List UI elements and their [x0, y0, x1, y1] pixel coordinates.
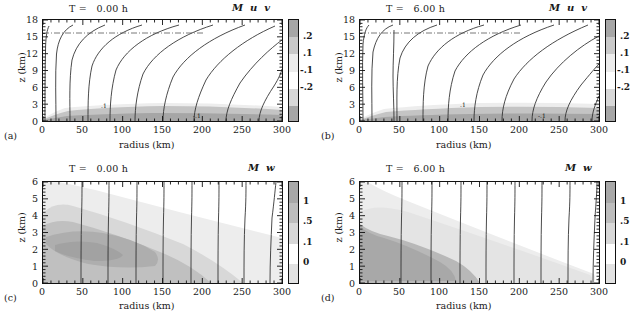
panel-d-xtick-200: 200	[509, 286, 529, 297]
panel-a-ytick-3: 3	[16, 99, 38, 110]
panel-a-ytick-15: 15	[16, 31, 38, 42]
panel-a-plot-area: .1 -.1	[42, 19, 283, 122]
panel-c-cbar-label-2: .1	[303, 237, 312, 247]
panel-d-xtick-50: 50	[389, 286, 409, 297]
panel-c-ytick-3: 3	[16, 227, 38, 238]
panel-b-xtick-0: 0	[349, 124, 369, 135]
panel-b-xtick-100: 100	[429, 124, 449, 135]
panel-d-variables: M w	[565, 162, 592, 173]
panel-c-ytick-4: 4	[16, 210, 38, 221]
panel-d-plot-area	[359, 181, 600, 284]
panel-b-cbar-label-2: -.1	[617, 65, 630, 75]
panel-c-xtick-0: 0	[32, 286, 52, 297]
panel-b-variables: M u v	[549, 2, 587, 13]
panel-a-xtick-50: 50	[72, 124, 92, 135]
panel-a-tag: (a)	[4, 130, 17, 141]
panel-a-contour-label-1: .1	[101, 102, 107, 109]
panel-b-cbar-label-0: .2	[620, 31, 629, 41]
panel-d-shading	[360, 182, 595, 283]
panel-b-tag: (b)	[321, 130, 335, 141]
panel-d-xtick-250: 250	[549, 286, 569, 297]
panel-b-xtick-50: 50	[389, 124, 409, 135]
panel-b-xtick-150: 150	[469, 124, 489, 135]
panel-c-xtick-100: 100	[112, 286, 132, 297]
panel-d-xtick-100: 100	[429, 286, 449, 297]
panel-b-plot-area: .1 -.1	[359, 19, 600, 122]
panel-c-xtick-300: 300	[272, 286, 292, 297]
panel-a-colorbar	[288, 19, 299, 122]
panel-b-xtick-300: 300	[589, 124, 609, 135]
panel-c-xtick-150: 150	[152, 286, 172, 297]
panel-a-variables: M u v	[232, 2, 270, 13]
panel-d-xlabel: radius (km)	[436, 300, 492, 311]
panel-b-ytick-15: 15	[333, 31, 355, 42]
panel-b-xtick-250: 250	[549, 124, 569, 135]
panel-d-cbar-label-2: .1	[620, 237, 629, 247]
panel-c-cbar-label-0: 1	[303, 196, 309, 206]
panel-a-cbar-label-2: -.1	[300, 65, 313, 75]
panel-a-contour-label-2: -.1	[193, 112, 201, 119]
panel-a-xtick-150: 150	[152, 124, 172, 135]
panel-b-ytick-12: 12	[333, 48, 355, 59]
panel-b-cbar-label-1: .1	[620, 48, 629, 58]
panel-d-ytick-1: 1	[333, 261, 355, 272]
panel-a-ytick-18: 18	[16, 14, 38, 25]
panel-a-xtick-200: 200	[192, 124, 212, 135]
panel-c-ytick-5: 5	[16, 193, 38, 204]
panel-b-xtick-200: 200	[509, 124, 529, 135]
panel-d-title: T = 6.00 h	[386, 163, 445, 174]
panel-a-cbar-label-1: .1	[303, 48, 312, 58]
panel-a-xtick-0: 0	[32, 124, 52, 135]
panel-b-ytick-9: 9	[333, 65, 355, 76]
panel-a-ytick-9: 9	[16, 65, 38, 76]
panel-a-ytick-6: 6	[16, 82, 38, 93]
panel-d-cbar-label-1: .5	[620, 216, 629, 226]
panel-d-colorbar	[605, 181, 616, 284]
panel-d-cbar-label-3: 0	[620, 257, 626, 267]
panel-a-xlabel: radius (km)	[119, 139, 175, 150]
panel-c-plot-area	[42, 181, 283, 284]
panel-d-xtick-300: 300	[589, 286, 609, 297]
panel-c-ytick-6: 6	[16, 176, 38, 187]
panel-c-ytick-2: 2	[16, 244, 38, 255]
panel-d-cbar-label-0: 1	[620, 196, 626, 206]
panel-b-contour-label-2: -.1	[538, 112, 546, 119]
panel-d-ytick-6: 6	[333, 176, 355, 187]
panel-d-ytick-5: 5	[333, 193, 355, 204]
panel-c-ytick-1: 1	[16, 261, 38, 272]
panel-c-xlabel: radius (km)	[119, 300, 175, 311]
panel-b-ytick-3: 3	[333, 99, 355, 110]
panel-c-title: T = 0.00 h	[69, 163, 128, 174]
panel-c-xtick-50: 50	[72, 286, 92, 297]
panel-b-cbar-label-3: -.2	[617, 82, 630, 92]
panel-d-ytick-2: 2	[333, 244, 355, 255]
panel-c-cbar-label-3: 0	[303, 257, 309, 267]
panel-b-colorbar	[605, 19, 616, 122]
panel-b-xlabel: radius (km)	[436, 139, 492, 150]
panel-d-xtick-0: 0	[349, 286, 369, 297]
panel-a-title: T = 0.00 h	[69, 3, 128, 14]
panel-c-xtick-200: 200	[192, 286, 212, 297]
panel-b-ytick-18: 18	[333, 14, 355, 25]
panel-a-xtick-250: 250	[232, 124, 252, 135]
panel-d-xtick-150: 150	[469, 286, 489, 297]
panel-a-cbar-label-3: -.2	[300, 82, 313, 92]
panel-b-title: T = 6.00 h	[386, 3, 445, 14]
panel-b-contour-label-1: .1	[460, 101, 466, 108]
panel-d-ytick-3: 3	[333, 227, 355, 238]
panel-c-xtick-250: 250	[232, 286, 252, 297]
panel-d-tag: (d)	[321, 292, 335, 303]
panel-b-ytick-6: 6	[333, 82, 355, 93]
panel-a-ytick-12: 12	[16, 48, 38, 59]
panel-a-xtick-100: 100	[112, 124, 132, 135]
panel-d-ytick-4: 4	[333, 210, 355, 221]
panel-a-cbar-label-0: .2	[303, 31, 312, 41]
panel-a-xtick-300: 300	[272, 124, 292, 135]
panel-c-variables: M w	[248, 162, 275, 173]
panel-c-cbar-label-1: .5	[303, 216, 312, 226]
panel-c-colorbar	[288, 181, 299, 284]
panel-c-tag: (c)	[4, 292, 17, 303]
